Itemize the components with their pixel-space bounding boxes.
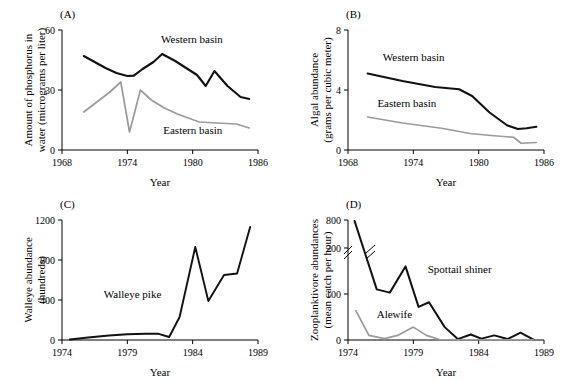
- y-tick-label: 0: [336, 335, 341, 346]
- x-tick-label: 1974: [338, 347, 358, 358]
- x-tick-label: 1989: [534, 347, 554, 358]
- x-tick-label: 1980: [183, 157, 203, 168]
- panel-label-a: (A): [60, 8, 75, 20]
- x-tick-label: 1974: [52, 347, 72, 358]
- x-tick-label: 1968: [52, 157, 72, 168]
- y-axis-title: Amount of phosphorus in: [22, 33, 34, 146]
- x-tick-label: 1986: [248, 157, 268, 168]
- panel-c: (C)040080012001974197919841989YearWalley…: [0, 190, 285, 381]
- panel-a: (A)030601968197419801986YearAmount of ph…: [0, 0, 285, 191]
- series-label: Eastern basin: [163, 124, 222, 136]
- y-tick-label: 800: [326, 215, 341, 226]
- x-tick-label: 1989: [248, 347, 268, 358]
- x-tick-label: 1984: [183, 347, 203, 358]
- y-axis-title: (hundreds): [35, 256, 48, 304]
- x-tick-label: 1984: [469, 347, 489, 358]
- x-axis-title: Year: [436, 366, 457, 378]
- y-tick-label: 0: [50, 145, 55, 156]
- series-line: [355, 221, 534, 340]
- y-tick-label: 4: [336, 85, 341, 96]
- y-axis-title: water (micrograms per liter): [35, 28, 48, 153]
- y-axis-title: (grams per cubic meter): [321, 37, 334, 143]
- x-axis-title: Year: [150, 176, 171, 188]
- y-tick-label: 8: [336, 25, 341, 36]
- x-tick-label: 1974: [403, 157, 423, 168]
- series-label: Walleye pike: [104, 288, 162, 300]
- x-tick-label: 1979: [117, 347, 137, 358]
- y-axis-title: Walleye abundance: [22, 237, 34, 323]
- x-axis-title: Year: [150, 366, 171, 378]
- panel-label-d: (D): [346, 198, 361, 210]
- y-tick-label: 0: [336, 145, 341, 156]
- panel-label-c: (C): [60, 198, 75, 210]
- y-axis-title: Zooplanktivore abundances: [308, 219, 320, 341]
- chart-c: 040080012001974197919841989YearWalleye a…: [0, 190, 285, 381]
- y-axis-title: (mean catch per hour): [321, 231, 334, 328]
- series-label: Alewife: [377, 308, 413, 320]
- y-axis-title: Algal abundance: [308, 53, 320, 127]
- series-label: Spottail shiner: [428, 263, 492, 275]
- x-tick-label: 1968: [338, 157, 358, 168]
- x-tick-label: 1974: [117, 157, 137, 168]
- series-label: Eastern basin: [377, 97, 436, 109]
- series-line: [70, 227, 250, 340]
- chart-b: 0481968197419801986YearAlgal abundance(g…: [286, 0, 571, 191]
- chart-d: 01002008001974197919841989YearZooplankti…: [286, 190, 571, 381]
- y-tick-label: 0: [50, 335, 55, 346]
- chart-a: 030601968197419801986YearAmount of phosp…: [0, 0, 285, 191]
- series-label: Western basin: [383, 51, 445, 63]
- x-tick-label: 1980: [469, 157, 489, 168]
- x-axis-title: Year: [436, 176, 457, 188]
- figure-container: (A)030601968197419801986YearAmount of ph…: [0, 0, 571, 381]
- panel-b: (B)0481968197419801986YearAlgal abundanc…: [286, 0, 571, 191]
- panel-label-b: (B): [346, 8, 361, 20]
- x-tick-label: 1979: [403, 347, 423, 358]
- series-line: [368, 117, 537, 143]
- series-label: Western basin: [161, 33, 223, 45]
- y-tick-label: 1200: [35, 215, 55, 226]
- x-tick-label: 1986: [534, 157, 554, 168]
- panel-d: (D)01002008001974197919841989YearZooplan…: [286, 190, 571, 381]
